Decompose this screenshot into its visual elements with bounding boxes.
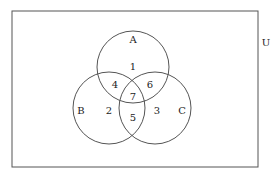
- region-only-c: 3: [154, 105, 160, 116]
- region-b-c: 5: [130, 112, 136, 123]
- universe-label: U: [262, 37, 270, 48]
- region-only-b: 2: [106, 105, 112, 116]
- region-a-b-c: 7: [130, 91, 136, 102]
- venn-diagram: U A B C 1 2 3 4 5 6 7: [0, 0, 278, 178]
- region-only-a: 1: [130, 61, 136, 72]
- region-a-b: 4: [112, 79, 118, 90]
- set-label-c: C: [178, 105, 186, 116]
- region-a-c: 6: [147, 79, 153, 90]
- set-label-a: A: [128, 34, 137, 45]
- set-label-b: B: [77, 105, 84, 116]
